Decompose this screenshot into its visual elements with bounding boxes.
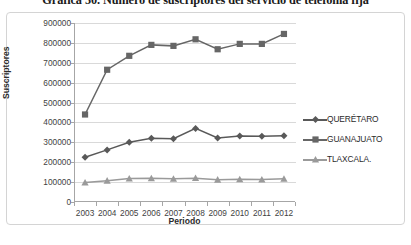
diamond-marker (236, 132, 243, 139)
legend-swatch (303, 113, 327, 125)
diamond-marker (312, 116, 319, 123)
x-axis-tick (118, 202, 119, 206)
y-axis-tick-label: 500000 (9, 98, 71, 108)
square-marker (311, 135, 320, 144)
y-axis-tick-label: 100000 (9, 177, 71, 187)
series-quertaro (82, 125, 288, 161)
chart-frame: Suscriptores 010000020000030000040000050… (6, 12, 405, 225)
square-marker (148, 42, 154, 48)
x-axis-tick (185, 202, 186, 206)
y-axis-tick-label: 400000 (9, 117, 71, 127)
triangle-marker (311, 155, 320, 164)
square-marker (82, 111, 88, 117)
plot-area: 2003200420052006200720082009201020112012 (74, 23, 295, 202)
square-marker (104, 67, 110, 73)
y-axis-tick-label: 0 (9, 197, 71, 207)
legend-item[interactable]: TLAXCALA. (303, 149, 407, 169)
x-axis-tick (140, 202, 141, 206)
square-marker (281, 31, 287, 37)
y-axis-tick-label: 300000 (9, 137, 71, 147)
series-line (85, 178, 284, 182)
diamond-marker (192, 125, 199, 132)
diamond-marker (126, 139, 133, 146)
legend-item[interactable]: QUERÉTARO (303, 109, 407, 129)
legend-item[interactable]: GUANAJUATO (303, 129, 407, 149)
series-line (85, 34, 284, 115)
triangle-marker (311, 155, 318, 162)
chart-legend: QUERÉTAROGUANAJUATOTLAXCALA. (303, 109, 407, 169)
diamond-marker (170, 135, 177, 142)
square-marker (259, 41, 265, 47)
chart-title: Gráfica 50. Número de suscriptores del s… (0, 0, 411, 8)
square-marker (237, 41, 243, 47)
x-axis-tick (229, 202, 230, 206)
x-axis-tick (162, 202, 163, 206)
legend-swatch (303, 133, 327, 145)
legend-label: QUERÉTARO (327, 114, 379, 124)
x-axis-tick (207, 202, 208, 206)
square-marker (170, 43, 176, 49)
y-axis-tick-label: 700000 (9, 58, 71, 68)
series-guanajuato (82, 31, 287, 118)
square-marker (215, 46, 221, 52)
diamond-marker (104, 146, 111, 153)
y-axis-tick-label: 800000 (9, 38, 71, 48)
legend-label: TLAXCALA. (327, 154, 371, 164)
diamond-marker (258, 133, 265, 140)
y-axis-tick-label: 900000 (9, 18, 71, 28)
series-layer (74, 23, 295, 202)
x-axis-tick (295, 202, 296, 206)
square-marker (312, 136, 318, 142)
x-axis-tick (251, 202, 252, 206)
series-line (85, 128, 284, 157)
square-marker (192, 36, 198, 42)
y-axis-tick-labels: 0100000200000300000400000500000600000700… (7, 23, 71, 202)
x-axis-title: Periodo (74, 216, 295, 226)
diamond-marker (148, 135, 155, 142)
series-tlaxcala (81, 175, 287, 186)
diamond-marker (214, 134, 221, 141)
legend-label: GUANAJUATO (327, 134, 382, 144)
x-axis-tick (273, 202, 274, 206)
x-axis-tick (96, 202, 97, 206)
x-axis-tick (74, 202, 75, 206)
diamond-marker (311, 115, 320, 124)
y-axis-tick-label: 600000 (9, 78, 71, 88)
diamond-marker (280, 132, 287, 139)
square-marker (126, 53, 132, 59)
legend-swatch (303, 153, 327, 165)
diamond-marker (82, 154, 89, 161)
y-axis-tick-label: 200000 (9, 157, 71, 167)
